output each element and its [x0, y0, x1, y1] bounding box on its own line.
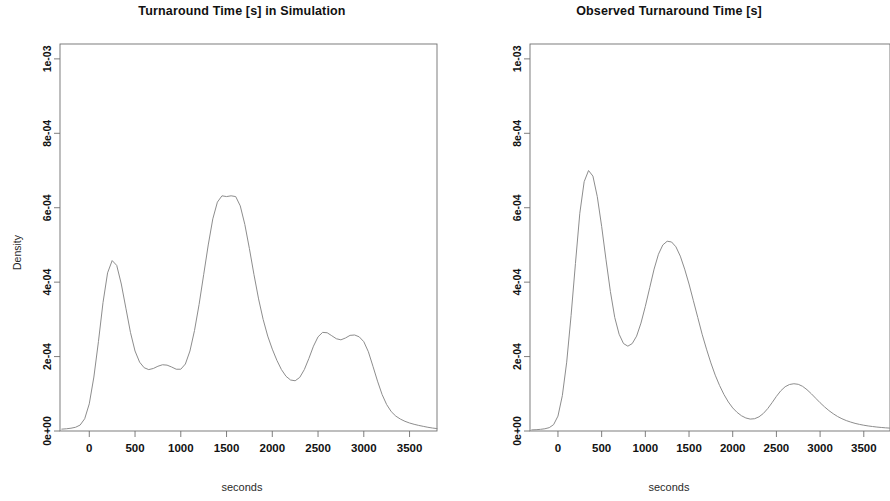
y-tick-label: 6e-04 — [41, 194, 53, 221]
y-tick-label: 8e-04 — [511, 120, 523, 147]
y-tick-label: 2e-04 — [511, 343, 523, 370]
x-tick-label: 3000 — [351, 442, 377, 454]
plot-frame — [530, 44, 890, 431]
x-tick-label: 1500 — [676, 442, 702, 454]
y-tick-label: 4e-04 — [511, 269, 523, 296]
x-axis-title-simulation: seconds — [0, 481, 466, 493]
x-tick-label: 1000 — [168, 442, 194, 454]
x-axis-title-observed: seconds — [448, 481, 890, 493]
x-tick-label: 1500 — [214, 442, 240, 454]
y-axis-title-simulation: Density — [11, 235, 23, 270]
plot-area-observed: 0e+002e-044e-046e-048e-041e-030500100015… — [448, 0, 890, 501]
density-curve — [532, 171, 890, 430]
x-tick-label: 2000 — [720, 442, 746, 454]
x-tick-label: 3500 — [851, 442, 877, 454]
y-tick-label: 1e-03 — [511, 45, 523, 72]
y-tick-label: 8e-04 — [41, 120, 53, 147]
y-tick-label: 0e+00 — [41, 416, 53, 446]
x-tick-label: 1000 — [633, 442, 659, 454]
x-tick-label: 500 — [125, 442, 144, 454]
y-tick-label: 1e-03 — [41, 45, 53, 72]
y-tick-label: 6e-04 — [511, 194, 523, 221]
x-tick-label: 0 — [555, 442, 561, 454]
x-tick-label: 2500 — [764, 442, 790, 454]
density-curve — [62, 196, 437, 429]
plot-frame — [60, 44, 437, 431]
panel-simulation: Turnaround Time [s] in Simulation 0e+002… — [0, 0, 448, 501]
y-tick-label: 4e-04 — [41, 269, 53, 296]
y-tick-label: 2e-04 — [41, 343, 53, 370]
x-tick-label: 0 — [86, 442, 92, 454]
x-tick-label: 2000 — [259, 442, 285, 454]
y-tick-label: 0e+00 — [511, 416, 523, 446]
x-tick-label: 500 — [592, 442, 611, 454]
x-tick-label: 3000 — [807, 442, 833, 454]
plot-area-simulation: 0e+002e-044e-046e-048e-041e-030500100015… — [0, 0, 448, 501]
density-plot-figure: Turnaround Time [s] in Simulation 0e+002… — [0, 0, 890, 501]
x-tick-label: 3500 — [397, 442, 423, 454]
x-tick-label: 2500 — [305, 442, 331, 454]
panel-observed: Observed Turnaround Time [s] 0e+002e-044… — [448, 0, 890, 501]
